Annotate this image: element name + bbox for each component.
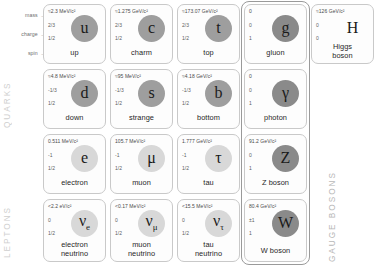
particle-symbol-orb: ντ: [205, 210, 232, 237]
particle-cell-top[interactable]: ≈173.07 GeV/c²2/31/2ttop: [177, 4, 240, 64]
particle-symbol-orb: u: [71, 15, 98, 42]
particle-name: tau: [178, 179, 239, 188]
particle-symbol-orb: b: [205, 80, 232, 107]
particle-mass: ≈173.07 GeV/c²: [182, 9, 208, 14]
particle-symbol: s: [148, 85, 154, 101]
particle-name: muonneutrino: [111, 241, 172, 258]
group-label-leptons: LEPTONS: [3, 196, 12, 258]
particle-symbol-orb: νe: [71, 210, 98, 237]
particle-spin: 1/2: [182, 231, 208, 236]
particle-symbol-orb: g: [272, 15, 299, 42]
particle-mass: 105.7 MeV/c²: [115, 139, 141, 144]
particle-spin: 1/2: [115, 231, 141, 236]
particle-name-line: boson: [312, 52, 373, 61]
particle-spin: 1/2: [48, 36, 74, 41]
particle-cell-z-boson[interactable]: 91.2 GeV/c²01ZZ boson: [244, 134, 307, 194]
particle-symbol-orb: c: [138, 15, 165, 42]
particle-spin: 1/2: [115, 36, 141, 41]
particle-name-line: neutrino: [44, 250, 105, 259]
particle-cell-w-boson[interactable]: 80.4 GeV/c²±11WW boson: [244, 199, 307, 262]
particle-mass: 0: [249, 74, 275, 79]
particle-name: gluon: [245, 49, 306, 58]
particle-symbol-subscript: τ: [220, 223, 224, 233]
particle-mass: <2.2 eV/c²: [48, 204, 74, 209]
particle-cell-strange[interactable]: ≈95 MeV/c²-1/31/2sstrange: [110, 69, 173, 129]
particle-symbol-orb: t: [205, 15, 232, 42]
particle-spin: 1/2: [115, 101, 141, 106]
particle-spin: 0: [316, 36, 342, 41]
particle-mass: ≈2.3 MeV/c²: [48, 9, 74, 14]
particle-name-line: neutrino: [111, 250, 172, 259]
particle-mass: 80.4 GeV/c²: [249, 204, 275, 209]
particle-name-line: neutrino: [178, 250, 239, 259]
axis-label-charge: charge →: [0, 28, 46, 39]
particle-symbol: μ: [147, 150, 156, 166]
particle-cell-muon-neutrino[interactable]: <0.17 MeV/c²01/2νμmuonneutrino: [110, 199, 173, 262]
particle-symbol: e: [81, 150, 88, 166]
particle-name: photon: [245, 114, 306, 123]
particle-cell-bottom[interactable]: ≈4.18 GeV/c²-1/31/2bbottom: [177, 69, 240, 129]
particle-name: Higgsboson: [312, 43, 373, 60]
particle-symbol-orb: νμ: [138, 210, 165, 237]
particle-mass: ≈126 GeV/c²: [316, 9, 342, 14]
particle-name: down: [44, 114, 105, 123]
particle-symbol: u: [81, 20, 89, 36]
particle-mass: 1.777 GeV/c²: [182, 139, 208, 144]
particle-mass: ≈1.275 GeV/c²: [115, 9, 141, 14]
axis-label-spin-text: spin: [28, 50, 38, 56]
particle-cell-down[interactable]: ≈4.8 MeV/c²-1/31/2ddown: [43, 69, 106, 129]
particle-symbol-orb: H: [339, 15, 366, 42]
particle-symbol: ντ: [213, 213, 224, 232]
particle-cell-electron-neutrino[interactable]: <2.2 eV/c²01/2νeelectronneutrino: [43, 199, 106, 262]
particle-symbol: γ: [282, 85, 289, 101]
particle-name: muon: [111, 179, 172, 188]
particle-symbol-orb: s: [138, 80, 165, 107]
particle-name: W boson: [245, 247, 306, 256]
particle-symbol: W: [278, 215, 293, 231]
particle-symbol: c: [148, 20, 155, 36]
particle-cell-higgs-boson[interactable]: ≈126 GeV/c²00HHiggsboson: [311, 4, 374, 64]
particle-symbol: νe: [79, 213, 90, 232]
particle-spin: 1/2: [48, 166, 74, 171]
particle-spin: 1: [249, 231, 275, 236]
particle-cell-tau-neutrino[interactable]: <15.5 MeV/c²01/2ντtauneutrino: [177, 199, 240, 262]
particle-spin: 1: [249, 166, 275, 171]
particle-cell-photon[interactable]: 001γphoton: [244, 69, 307, 129]
particle-mass: 0.511 MeV/c²: [48, 139, 74, 144]
particle-spin: 1: [249, 101, 275, 106]
particle-cell-charm[interactable]: ≈1.275 GeV/c²2/31/2ccharm: [110, 4, 173, 64]
particle-name: bottom: [178, 114, 239, 123]
particle-cell-tau[interactable]: 1.777 GeV/c²-11/2τtau: [177, 134, 240, 194]
particle-symbol-orb: d: [71, 80, 98, 107]
axis-label-charge-text: charge: [21, 31, 37, 37]
particle-mass: 91.2 GeV/c²: [249, 139, 275, 144]
group-label-gauge-bosons: GAUGE BOSONS: [328, 152, 337, 262]
particle-mass: ≈4.8 MeV/c²: [48, 74, 74, 79]
particle-symbol-orb: τ: [205, 145, 232, 172]
particle-cell-up[interactable]: ≈2.3 MeV/c²2/31/2uup: [43, 4, 106, 64]
particle-symbol-orb: γ: [272, 80, 299, 107]
particle-spin: 1/2: [182, 166, 208, 171]
particle-symbol-orb: e: [71, 145, 98, 172]
particle-symbol: b: [215, 85, 223, 101]
particle-name: strange: [111, 114, 172, 123]
particle-symbol: νμ: [145, 213, 157, 232]
particle-spin: 1/2: [48, 231, 74, 236]
particle-symbol: Z: [281, 150, 291, 166]
particle-symbol: d: [81, 85, 89, 101]
particle-mass: ≈4.18 GeV/c²: [182, 74, 208, 79]
particle-cell-gluon[interactable]: 001ggluon: [244, 4, 307, 64]
particle-name: tauneutrino: [178, 241, 239, 258]
particle-symbol: τ: [215, 150, 221, 166]
particle-spin: 1/2: [48, 101, 74, 106]
particle-spin: 1/2: [115, 166, 141, 171]
particle-cell-electron[interactable]: 0.511 MeV/c²-11/2eelectron: [43, 134, 106, 194]
particle-spin: 1/2: [182, 36, 208, 41]
particle-mass: <15.5 MeV/c²: [182, 204, 208, 209]
axis-label-mass-text: mass: [25, 12, 38, 18]
particle-cell-muon[interactable]: 105.7 MeV/c²-11/2μmuon: [110, 134, 173, 194]
particle-mass: <0.17 MeV/c²: [115, 204, 141, 209]
particle-mass: 0: [249, 9, 275, 14]
axis-label-mass: mass →: [0, 9, 46, 20]
